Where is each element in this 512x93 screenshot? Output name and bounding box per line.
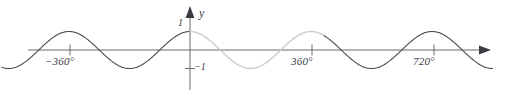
y-axis-tick-label-negone: −1 bbox=[194, 62, 206, 72]
cosine-graph-canvas bbox=[0, 0, 512, 93]
y-axis-tick-label-one: 1 bbox=[178, 18, 183, 28]
cosine-graph-figure: −360° 360° 720° 1 −1 y bbox=[0, 0, 512, 93]
x-axis-arrow-icon bbox=[479, 46, 491, 55]
y-axis-arrow-icon bbox=[186, 6, 195, 18]
x-axis-tick-label-360: 360° bbox=[291, 56, 313, 67]
x-axis-tick-label-neg360: −360° bbox=[45, 56, 74, 67]
x-axis-tick-label-720: 720° bbox=[413, 56, 435, 67]
y-axis-name-label: y bbox=[199, 7, 204, 19]
